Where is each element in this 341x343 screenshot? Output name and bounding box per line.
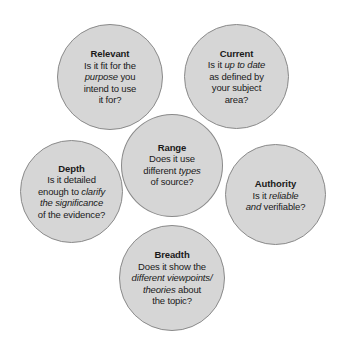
circle-authority-title: Authority (246, 178, 306, 189)
circle-range-title: Range (143, 142, 200, 153)
circle-relevant-text: Is it fit for thepurpose youintend to us… (84, 60, 136, 106)
circle-relevant: Relevant Is it fit for thepurpose youint… (57, 24, 163, 130)
circle-authority-text: Is it reliableand verifiable? (246, 190, 306, 213)
circle-depth-title: Depth (38, 163, 105, 174)
circle-relevant-title: Relevant (84, 48, 136, 59)
source-evaluation-diagram: Relevant Is it fit for thepurpose youint… (0, 0, 341, 343)
circle-depth-text: Is it detailedenough to clarifythe signi… (38, 174, 105, 220)
circle-range-text: Does it usedifferent typesof source? (143, 153, 200, 187)
circle-authority: Authority Is it reliableand verifiable? (225, 144, 326, 245)
circle-breadth-text: Does it show thedifferent viewpoints/the… (132, 261, 213, 307)
circle-depth: Depth Is it detailedenough to clarifythe… (20, 140, 123, 243)
circle-range: Range Does it usedifferent typesof sourc… (121, 114, 223, 217)
circle-current-title: Current (208, 48, 265, 59)
circle-breadth-title: Breadth (132, 249, 213, 260)
circle-breadth: Breadth Does it show thedifferent viewpo… (119, 225, 225, 331)
circle-current-text: Is it up to dateas defined byyour subjec… (208, 59, 265, 105)
circle-current: Current Is it up to dateas defined byyou… (184, 24, 289, 129)
